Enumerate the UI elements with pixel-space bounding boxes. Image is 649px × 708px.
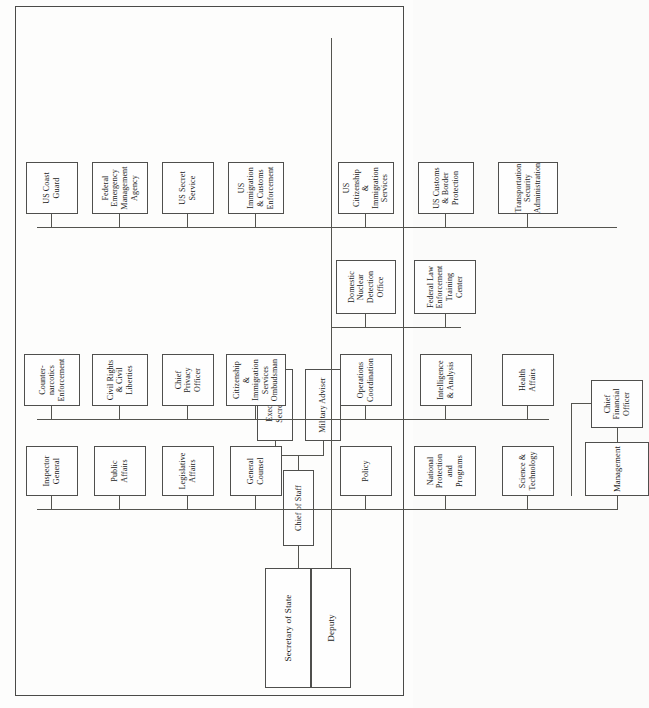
node-us-immigration-customs-enforcement[interactable]: US Immigration & Customs Enforcement: [228, 162, 284, 214]
node-chief-of-staff[interactable]: Chief of Staff: [283, 470, 314, 546]
node-label-cis-ombudsman: Citizenship & Immigration Services Ombud…: [232, 357, 280, 403]
node-label-operations-coordination: Operations Coordination: [356, 357, 375, 403]
node-military-adviser[interactable]: Military Adviser: [305, 369, 341, 441]
node-management[interactable]: Management: [585, 442, 649, 496]
node-label-cbp: US Customs & Border Protection: [432, 165, 461, 211]
node-label-health-affairs: Health Affairs: [518, 357, 537, 403]
node-label-ice: US Immigration & Customs Enforcement: [237, 165, 275, 211]
node-label-counternarcotics: Counter-narcotics Enforcement: [38, 357, 67, 403]
node-label-chief-of-staff: Chief of Staff: [294, 485, 304, 531]
connector-colB-stub-4: [255, 406, 256, 420]
connector-mgmt-to-cfo: [617, 428, 618, 442]
connector-to-mil-adviser: [323, 441, 324, 456]
node-science-and-technology[interactable]: Science & Technology: [502, 446, 554, 496]
node-label-public-affairs: Public Affairs: [110, 449, 129, 493]
node-public-affairs[interactable]: Public Affairs: [94, 446, 146, 496]
node-label-policy: Policy: [361, 460, 371, 481]
connector-colB-stub-5: [365, 406, 366, 420]
connector-colB-stub-3: [187, 406, 188, 420]
connector-colB-spine: [37, 419, 331, 420]
node-label-general-counsel: General Counsel: [246, 449, 265, 493]
connector-colB-stub-6: [445, 406, 446, 420]
node-operations-coordination[interactable]: Operations Coordination: [340, 354, 392, 406]
node-transportation-security-administration[interactable]: Transportation Security Administration: [498, 162, 558, 214]
node-us-secret-service[interactable]: US Secret Service: [162, 162, 214, 214]
node-health-affairs[interactable]: Health Affairs: [502, 354, 554, 406]
node-legislative-affairs[interactable]: Legislative Affairs: [162, 446, 214, 496]
node-label-chief-privacy-officer: Chief Privacy Officer: [174, 357, 203, 403]
node-label-cfo: Chief Financial Officer: [603, 383, 632, 425]
node-label-legislative-affairs: Legislative Affairs: [178, 449, 197, 493]
node-label-secretary: Secretary of State: [283, 594, 294, 661]
node-label-uscis: US Citizenship & Immigration Services: [342, 165, 390, 211]
node-us-citizenship-immigration-services[interactable]: US Citizenship & Immigration Services: [338, 162, 394, 214]
connector-colB-spine-lower: [331, 419, 549, 420]
node-label-inspector-general: Inspector General: [42, 449, 61, 493]
node-label-deputy: Deputy: [326, 614, 337, 642]
node-chief-financial-officer[interactable]: Chief Financial Officer: [591, 380, 643, 428]
node-label-dndo: Domestic Nuclear Detection Office: [347, 263, 385, 311]
connector-colC-stub-1: [365, 314, 366, 328]
connector-colD-stub-5: [365, 214, 366, 228]
node-label-national-protection: National Protection and Programs: [426, 449, 464, 493]
connector-chief-bracket: [275, 455, 323, 456]
connector-colA-stub-8: [617, 496, 618, 510]
connector-colC-stub-2: [445, 314, 446, 328]
node-us-customs-border-protection[interactable]: US Customs & Border Protection: [418, 162, 474, 214]
connector-colA-stub-1: [51, 496, 52, 510]
connector-colA-stub-2: [119, 496, 120, 510]
org-chart-canvas: Secretary of State Deputy Chief of Staff…: [15, 6, 404, 696]
node-label-fletc: Federal Law Enforcement Training Center: [426, 263, 464, 311]
node-counternarcotics-enforcement[interactable]: Counter-narcotics Enforcement: [24, 354, 80, 406]
node-chief-privacy-officer[interactable]: Chief Privacy Officer: [162, 354, 214, 406]
connector-colA-stub-7: [527, 496, 528, 510]
connector-colD-stub-2: [119, 214, 120, 228]
node-label-management: Management: [612, 446, 622, 492]
node-civil-rights-civil-liberties[interactable]: Civil Rights & Civil Liberties: [92, 354, 148, 406]
connector-colB-stub-2: [119, 406, 120, 420]
node-label-fema: Federal Emergency Management Agency: [101, 165, 139, 211]
node-general-counsel[interactable]: General Counsel: [230, 446, 282, 496]
node-domestic-nuclear-detection-office[interactable]: Domestic Nuclear Detection Office: [336, 260, 396, 314]
node-fletc[interactable]: Federal Law Enforcement Training Center: [414, 260, 476, 314]
node-policy[interactable]: Policy: [340, 446, 392, 496]
node-secretary-of-state[interactable]: Secretary of State: [265, 568, 311, 688]
connector-colB-stub-7: [527, 406, 528, 420]
node-label-us-coast-guard: US Coast Guard: [42, 165, 61, 211]
connector-colA-stub-4: [255, 496, 256, 510]
connector-root-to-chief: [298, 546, 299, 568]
node-label-science-technology: Science & Technology: [518, 449, 537, 493]
node-national-protection-and-programs[interactable]: National Protection and Programs: [414, 446, 476, 496]
node-cis-ombudsman[interactable]: Citizenship & Immigration Services Ombud…: [226, 354, 286, 406]
connector-colA-stub-6: [445, 496, 446, 510]
connector-colB-stub-1: [51, 406, 52, 420]
connector-colD-stub-1: [51, 214, 52, 228]
node-deputy[interactable]: Deputy: [311, 568, 351, 688]
connector-colA-stub-5: [365, 496, 366, 510]
connector-colA-spine-lower2: [389, 509, 617, 510]
node-intelligence-analysis[interactable]: Intelligence & Analysis: [420, 354, 472, 406]
connector-colD-stub-4: [255, 214, 256, 228]
node-label-military-adviser: Military Adviser: [318, 377, 328, 432]
connector-colD-stub-7: [527, 214, 528, 228]
connector-chief-stub: [298, 456, 299, 470]
connector-colD-stub-6: [445, 214, 446, 228]
node-label-us-secret-service: US Secret Service: [178, 165, 197, 211]
node-fema[interactable]: Federal Emergency Management Agency: [92, 162, 148, 214]
node-label-intelligence-analysis: Intelligence & Analysis: [436, 357, 455, 403]
node-label-tsa: Transportation Security Administration: [514, 163, 543, 213]
connector-colA-stub-3: [187, 496, 188, 510]
connector-cfo-riser: [571, 403, 591, 404]
node-label-civil-rights: Civil Rights & Civil Liberties: [106, 357, 135, 403]
connector-cfo-top-rail: [571, 404, 572, 496]
connector-colA-spine: [37, 509, 331, 510]
node-us-coast-guard[interactable]: US Coast Guard: [26, 162, 78, 214]
connector-colC-spine: [331, 327, 461, 328]
node-inspector-general[interactable]: Inspector General: [26, 446, 78, 496]
connector-colD-stub-3: [187, 214, 188, 228]
connector-colD-spine: [37, 227, 617, 228]
connector-colD-feed: [331, 228, 332, 328]
connector-colA-spine-lower: [331, 509, 389, 510]
